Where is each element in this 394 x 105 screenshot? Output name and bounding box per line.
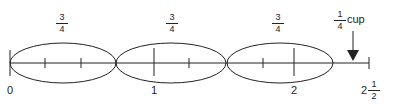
end-label-whole: 2 (361, 84, 367, 96)
axis-label-1: 1 (151, 84, 157, 96)
end-label-fraction: 1 2 (368, 80, 380, 101)
axis-label-2: 2 (291, 84, 297, 96)
segment-label-2: 3 4 (166, 13, 178, 34)
segment-label-1: 3 4 (56, 13, 68, 34)
pointer-unit: cup (347, 13, 365, 25)
axis-label-0: 0 (7, 84, 13, 96)
segment-label-3: 3 4 (272, 13, 284, 34)
pointer-fraction: 1 4 (334, 10, 346, 31)
arrow-down-icon (347, 50, 359, 61)
